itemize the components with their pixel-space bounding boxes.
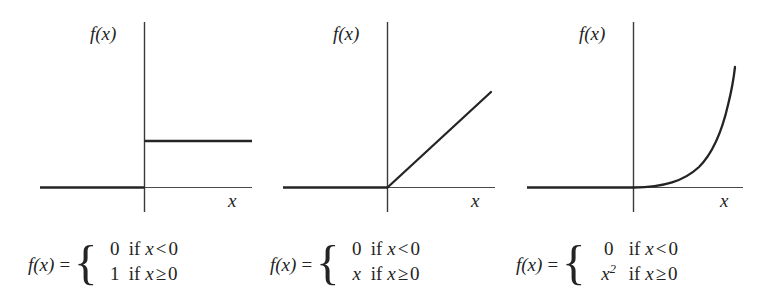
- case-if-text: if: [371, 238, 383, 259]
- left-brace: {: [562, 243, 586, 283]
- case-value: x2: [589, 264, 629, 283]
- case-variable: x: [387, 238, 395, 259]
- figure-panel-step: f(x) x f(x) = { 0 ifx<0 1 ifx≥0: [0, 0, 257, 302]
- case-condition: ifx≥0: [129, 264, 178, 283]
- case-condition: ifx≥0: [371, 264, 420, 283]
- case-if-text: if: [129, 238, 141, 259]
- case-value: 0: [101, 239, 129, 258]
- case-value-exponent: 2: [610, 261, 616, 276]
- case-bound: 0: [410, 238, 420, 259]
- cases-list: 0 ifx<0 1 ifx≥0: [101, 239, 178, 289]
- case-variable: x: [145, 263, 153, 284]
- case-relation: <: [656, 238, 667, 259]
- curve-segment-positive: [634, 67, 736, 188]
- equals-sign: =: [59, 255, 70, 274]
- case-row: x ifx≥0: [343, 264, 420, 289]
- y-axis-label: f(x): [90, 24, 116, 43]
- case-value-base: x: [601, 263, 609, 284]
- figure-panel-ramp: f(x) x f(x) = { 0 ifx<0 x ifx≥0: [257, 0, 514, 302]
- case-bound: 0: [410, 263, 420, 284]
- x-axis-label: x: [228, 191, 236, 210]
- case-bound: 0: [668, 263, 678, 284]
- y-axis-label: f(x): [579, 24, 605, 43]
- case-relation: <: [398, 238, 409, 259]
- case-row: 1 ifx≥0: [101, 264, 178, 289]
- case-variable: x: [387, 263, 395, 284]
- case-variable: x: [645, 238, 653, 259]
- case-condition: ifx<0: [129, 239, 178, 258]
- left-brace: {: [316, 243, 340, 283]
- case-relation: ≥: [398, 263, 408, 284]
- piecewise-equation: f(x) = { 0 ifx<0 x ifx≥0: [270, 239, 420, 289]
- case-condition: ifx≥0: [629, 264, 678, 283]
- case-variable: x: [145, 238, 153, 259]
- case-condition: ifx<0: [629, 239, 678, 258]
- case-value: x: [343, 264, 371, 283]
- case-row: 0 ifx<0: [101, 239, 178, 264]
- case-relation: <: [156, 238, 167, 259]
- case-value: 0: [589, 239, 629, 258]
- equation-lhs: f(x): [28, 255, 54, 274]
- cases-list: 0 ifx<0 x2 ifx≥0: [589, 239, 678, 289]
- case-bound: 0: [168, 238, 178, 259]
- equation-lhs: f(x): [270, 255, 296, 274]
- piecewise-function-figure: f(x) x f(x) = { 0 ifx<0 1 ifx≥0: [0, 0, 771, 302]
- case-if-text: if: [371, 263, 383, 284]
- y-axis-label: f(x): [333, 24, 359, 43]
- case-row: 0 ifx<0: [589, 239, 678, 264]
- plot-step-function: [0, 0, 257, 225]
- x-axis-label: x: [471, 191, 479, 210]
- case-condition: ifx<0: [371, 239, 420, 258]
- equals-sign: =: [301, 255, 312, 274]
- case-relation: ≥: [156, 263, 166, 284]
- case-row: x2 ifx≥0: [589, 264, 678, 289]
- equals-sign: =: [547, 255, 558, 274]
- case-if-text: if: [129, 263, 141, 284]
- case-bound: 0: [668, 238, 678, 259]
- case-relation: ≥: [656, 263, 666, 284]
- x-axis-label: x: [720, 191, 728, 210]
- plot-squared-function: [514, 0, 771, 225]
- case-row: 0 ifx<0: [343, 239, 420, 264]
- case-value: 0: [343, 239, 371, 258]
- equation-lhs: f(x): [516, 255, 542, 274]
- figure-panel-squared: f(x) x f(x) = { 0 ifx<0 x2 ifx≥0: [514, 0, 771, 302]
- case-if-text: if: [629, 238, 641, 259]
- left-brace: {: [74, 243, 98, 283]
- case-value: 1: [101, 264, 129, 283]
- case-if-text: if: [629, 263, 641, 284]
- piecewise-equation: f(x) = { 0 ifx<0 x2 ifx≥0: [516, 239, 678, 289]
- piecewise-equation: f(x) = { 0 ifx<0 1 ifx≥0: [28, 239, 178, 289]
- case-variable: x: [645, 263, 653, 284]
- cases-list: 0 ifx<0 x ifx≥0: [343, 239, 420, 289]
- curve-segment-positive: [388, 92, 492, 188]
- case-bound: 0: [168, 263, 178, 284]
